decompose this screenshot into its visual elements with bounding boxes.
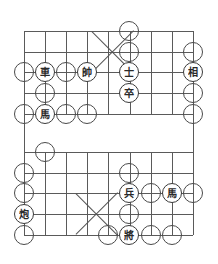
piece-label: 車: [40, 67, 50, 77]
board-node-marker[interactable]: [119, 163, 139, 183]
piece-label: 馬: [40, 109, 50, 119]
board-node-marker[interactable]: [119, 21, 139, 41]
xiangqi-board[interactable]: 車帥士相卒馬兵馬炮將: [0, 0, 218, 264]
piece-label: 相: [188, 67, 198, 77]
board-node-marker[interactable]: [183, 104, 203, 124]
piece-label: 炮: [19, 209, 29, 219]
file-line-top-6: [151, 31, 152, 114]
piece-chariot-rook[interactable]: 車: [35, 62, 55, 82]
piece-label: 卒: [124, 88, 134, 98]
board-node-marker[interactable]: [98, 225, 118, 245]
piece-label: 馬: [167, 188, 177, 198]
board-node-marker[interactable]: [162, 225, 182, 245]
file-line-bottom-1: [45, 152, 46, 235]
piece-general-black-king[interactable]: 將: [119, 225, 139, 245]
piece-horse-bottom[interactable]: 馬: [162, 183, 182, 203]
board-node-marker[interactable]: [141, 225, 161, 245]
piece-cannon[interactable]: 炮: [14, 204, 34, 224]
board-node-marker[interactable]: [183, 42, 203, 62]
board-node-marker[interactable]: [56, 104, 76, 124]
board-node-marker[interactable]: [14, 163, 34, 183]
board-node-marker[interactable]: [35, 83, 55, 103]
piece-pawn-black[interactable]: 卒: [119, 83, 139, 103]
piece-label: 兵: [124, 188, 134, 198]
piece-advisor[interactable]: 士: [119, 62, 139, 82]
piece-soldier-red[interactable]: 兵: [119, 183, 139, 203]
board-node-marker[interactable]: [35, 142, 55, 162]
file-line-top-7: [172, 31, 173, 114]
piece-label: 士: [124, 67, 134, 77]
board-node-marker[interactable]: [183, 83, 203, 103]
piece-label: 將: [124, 230, 134, 240]
board-node-marker[interactable]: [14, 62, 34, 82]
file-line-top-4: [108, 31, 109, 114]
file-line-bottom-4: [108, 152, 109, 235]
board-node-marker[interactable]: [141, 183, 161, 203]
board-node-marker[interactable]: [14, 104, 34, 124]
board-node-marker[interactable]: [119, 42, 139, 62]
board-node-marker[interactable]: [183, 183, 203, 203]
board-node-marker[interactable]: [14, 183, 34, 203]
board-node-marker[interactable]: [77, 104, 97, 124]
file-line-bottom-2: [66, 152, 67, 235]
piece-horse-top[interactable]: 馬: [35, 104, 55, 124]
board-node-marker[interactable]: [14, 225, 34, 245]
piece-minister-elephant[interactable]: 相: [183, 62, 203, 82]
piece-marshal-red-king[interactable]: 帥: [77, 62, 97, 82]
piece-label: 帥: [82, 67, 92, 77]
board-node-marker[interactable]: [56, 62, 76, 82]
board-node-marker[interactable]: [119, 204, 139, 224]
